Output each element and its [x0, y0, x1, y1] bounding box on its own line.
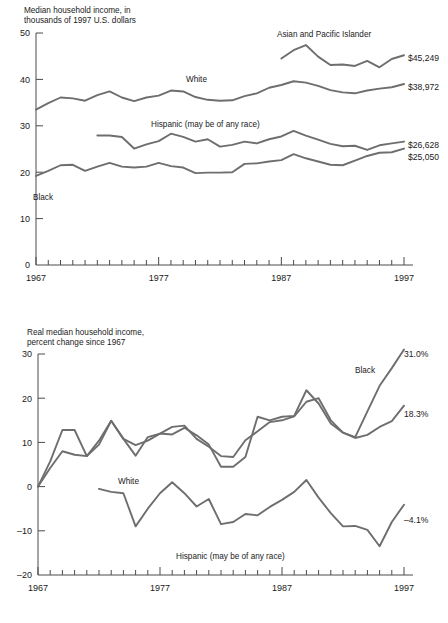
series-line-asian-and-pacific-islander	[281, 45, 404, 67]
y-tick-label: 10	[22, 438, 32, 448]
end-label-white: $38,972	[408, 82, 439, 92]
series-line-white	[36, 81, 404, 109]
end-label-black-bottom: 31.0%	[404, 349, 429, 359]
y-axis-tick-labels-top: 01020304050	[20, 28, 30, 270]
chart-title-line1-bottom: Real median household income,	[27, 328, 144, 337]
x-tick-label: 1987	[272, 583, 292, 593]
end-label-black: $25,050	[408, 152, 439, 162]
y-tick-label: 30	[20, 121, 30, 131]
series-line-black	[36, 149, 404, 176]
end-label-white-bottom: 18.3%	[404, 409, 429, 419]
axis-group-bottom	[38, 354, 413, 575]
series-line-hispanic-may-be-of-any-race	[97, 131, 404, 150]
series-label-black-bottom: Black	[355, 366, 376, 375]
x-tick-label: 1977	[149, 273, 169, 283]
y-tick-label: 40	[20, 75, 30, 85]
median-income-chart-svg: Median household income, in thousands of…	[0, 0, 448, 310]
series-line-white	[38, 398, 404, 486]
series-label-white: White	[186, 75, 207, 84]
y-tick-label: 50	[20, 28, 30, 38]
chart-title-line2: thousands of 1997 U.S. dollars	[24, 16, 136, 25]
series-label-hispanic-bottom: Hispanic (may be of any race)	[176, 552, 285, 561]
series-label-asian: Asian and Pacific Islander	[277, 30, 371, 39]
series-line-hispanic-may-be-of-any-race	[99, 480, 404, 546]
x-tick-label: 1987	[271, 273, 291, 283]
y-tick-label: 10	[20, 214, 30, 224]
end-label-hispanic: $26,628	[408, 140, 439, 150]
series-label-hispanic: Hispanic (may be of any race)	[151, 120, 260, 129]
y-tick-label: –20	[17, 570, 32, 580]
x-tick-label: 1967	[28, 583, 48, 593]
y-tick-label: 20	[20, 168, 30, 178]
end-label-hispanic-bottom: –4.1%	[404, 515, 429, 525]
series-label-white-bottom: White	[118, 477, 139, 486]
y-axis-tick-labels-bottom: –20–100102030	[17, 349, 32, 580]
x-tick-label: 1997	[394, 583, 414, 593]
median-income-chart-panel: Median household income, in thousands of…	[0, 0, 448, 310]
data-lines-top	[36, 45, 404, 176]
chart-title-line1: Median household income, in	[24, 6, 131, 15]
axis-group-top	[36, 33, 413, 265]
y-tick-label: 20	[22, 394, 32, 404]
percent-change-chart-svg: Real median household income, percent ch…	[0, 320, 448, 623]
x-tick-label: 1977	[150, 583, 170, 593]
x-tick-label: 1967	[26, 273, 46, 283]
x-axis-tick-labels-top: 1967197719871997	[26, 273, 414, 283]
percent-change-chart-panel: Real median household income, percent ch…	[0, 320, 448, 623]
y-tick-label: –10	[17, 526, 32, 536]
x-axis-tick-labels-bottom: 1967197719871997	[28, 583, 414, 593]
data-lines-bottom	[38, 350, 404, 547]
series-line-black	[38, 350, 404, 487]
y-tick-label: 30	[22, 349, 32, 359]
chart-title-line2-bottom: percent change since 1967	[27, 338, 126, 347]
y-tick-label: 0	[25, 260, 30, 270]
series-label-black: Black	[33, 193, 54, 202]
y-tick-label: 0	[27, 482, 32, 492]
end-label-asian: $45,249	[408, 53, 439, 63]
x-tick-label: 1997	[394, 273, 414, 283]
